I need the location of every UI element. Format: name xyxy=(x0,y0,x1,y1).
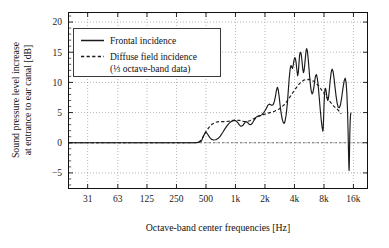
figure-container: 31631252505001k2k4k8k16k −505101520 Octa… xyxy=(0,0,389,248)
legend-label-sublabel: (⅓ octave-band data) xyxy=(110,64,190,75)
y-tick-label: 0 xyxy=(57,138,62,148)
legend-label-diffuse: Diffuse field incidence xyxy=(110,52,197,62)
legend-label-frontal: Frontal incidence xyxy=(110,36,176,46)
x-tick-label: 250 xyxy=(169,194,184,204)
x-tick-label: 63 xyxy=(113,194,123,204)
y-tick-label: 15 xyxy=(53,48,63,58)
y-tick-label: 20 xyxy=(53,17,63,27)
x-axis-title: Octave-band center frequencies [Hz] xyxy=(146,222,290,233)
x-tick-label: 2k xyxy=(260,194,270,204)
chart-canvas: 31631252505001k2k4k8k16k −505101520 Octa… xyxy=(0,0,389,248)
x-tick-label: 8k xyxy=(319,194,329,204)
y-tick-label: 5 xyxy=(57,108,62,118)
x-tick-label: 125 xyxy=(140,194,155,204)
x-tick-label: 4k xyxy=(290,194,300,204)
x-tick-label: 500 xyxy=(199,194,214,204)
y-axis-title-line1: Sound pressure level increase xyxy=(10,41,21,158)
y-tick-label: 10 xyxy=(53,78,63,88)
x-tick-label: 16k xyxy=(346,194,361,204)
y-tick-label: −5 xyxy=(52,168,62,178)
x-tick-label: 1k xyxy=(231,194,241,204)
x-tick-label: 31 xyxy=(83,194,93,204)
legend: Frontal incidence Diffuse field incidenc… xyxy=(74,29,221,77)
y-axis-title-line2: at entrance to ear canal [dB] xyxy=(22,45,33,156)
